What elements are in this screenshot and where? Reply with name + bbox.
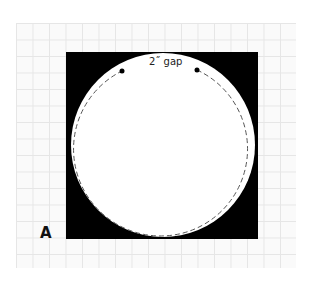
panel-label: A — [40, 224, 52, 242]
gap-marker-left — [120, 69, 125, 74]
gap-label: 2˝ gap — [149, 56, 182, 67]
gap-marker-right — [195, 68, 200, 73]
